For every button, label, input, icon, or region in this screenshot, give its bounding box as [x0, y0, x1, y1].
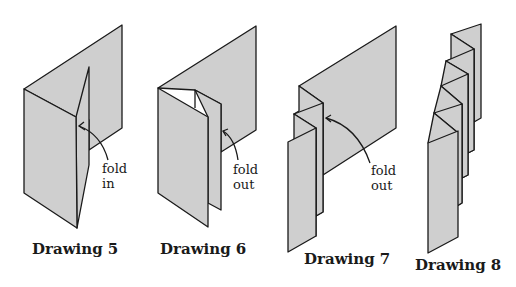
annotation-line: in	[102, 176, 127, 191]
annotation-line: out	[233, 177, 258, 192]
annotation-line: out	[371, 178, 396, 193]
drawing-5-annotation: fold in	[102, 161, 127, 191]
annotation-line: fold	[102, 161, 127, 176]
drawing-7-caption: Drawing 7	[304, 250, 390, 268]
drawing-6-annotation: fold out	[233, 162, 258, 192]
folding-diagram: fold in fold out fold out Drawing 5 Draw…	[0, 0, 516, 287]
annotation-line: fold	[233, 162, 258, 177]
drawing-5-caption: Drawing 5	[32, 240, 118, 258]
drawing-8-shape	[428, 24, 481, 253]
drawing-6-caption: Drawing 6	[160, 240, 246, 258]
drawing-6-shape	[158, 26, 256, 227]
drawing-8-caption: Drawing 8	[415, 256, 501, 274]
drawing-5-shape	[24, 25, 122, 228]
drawing-7-shape	[288, 26, 396, 252]
drawing-7-annotation: fold out	[371, 163, 396, 193]
annotation-line: fold	[371, 163, 396, 178]
